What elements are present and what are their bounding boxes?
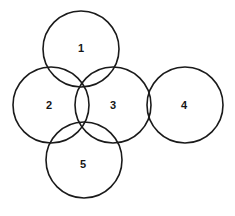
circle-label-2: 2 xyxy=(46,100,52,111)
circle-label-5: 5 xyxy=(80,159,86,170)
circle-label-4: 4 xyxy=(181,100,187,111)
diagram-canvas: 1 2 3 4 5 xyxy=(0,0,235,216)
circle-label-1: 1 xyxy=(78,43,84,54)
overlapping-circles-svg xyxy=(0,0,235,216)
circle-label-3: 3 xyxy=(110,100,116,111)
